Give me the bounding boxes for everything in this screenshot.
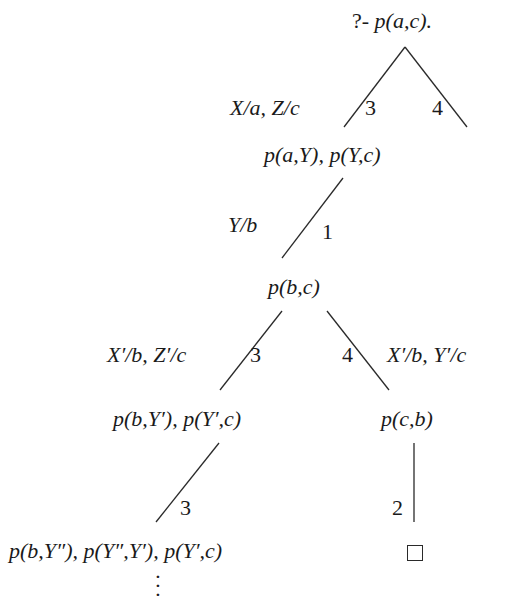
edge-clause-number: 2	[392, 497, 403, 519]
edge-substitution: X/a, Z/c	[230, 97, 300, 119]
query-goal: p(a,c).	[375, 8, 432, 33]
tree-edges	[0, 0, 508, 605]
edge-clause-number: 4	[432, 97, 443, 119]
edge-clause-number: 3	[250, 344, 261, 366]
goal-node: p(c,b)	[381, 408, 433, 430]
continuation-ellipsis: ···	[148, 572, 168, 599]
edge-clause-number: 3	[365, 97, 376, 119]
goal-node: p(a,Y), p(Y,c)	[264, 144, 381, 166]
edge-n1-to-n2	[282, 178, 343, 258]
root-query: ?- p(a,c).	[352, 10, 432, 32]
edge-substitution: X′/b, Y′/c	[387, 344, 466, 366]
edge-clause-number: 4	[342, 344, 353, 366]
goal-node: p(b,Y″), p(Y″,Y′), p(Y′,c)	[9, 540, 222, 562]
edge-n2-to-n3-right	[327, 311, 389, 390]
edge-substitution: Y/b	[228, 214, 257, 236]
goal-node: p(b,c)	[268, 276, 320, 298]
empty-clause-success-icon	[407, 545, 423, 561]
edge-clause-number: 1	[322, 221, 333, 243]
goal-node: p(b,Y′), p(Y′,c)	[113, 408, 241, 430]
query-prompt: ?-	[352, 8, 375, 33]
edge-substitution: X′/b, Z′/c	[107, 344, 186, 366]
edge-clause-number: 3	[180, 497, 191, 519]
